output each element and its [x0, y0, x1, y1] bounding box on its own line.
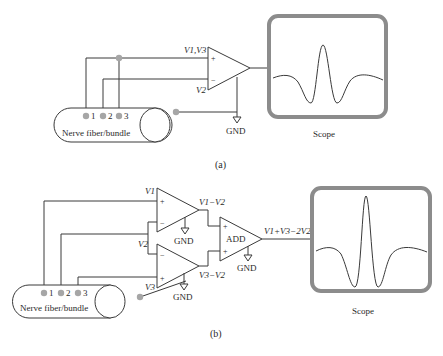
- panel-caption-a: (a): [215, 159, 226, 171]
- wire-shared-minus-b: [148, 222, 157, 254]
- electrode-1-a: [83, 113, 89, 119]
- electrode-3-a: [116, 113, 122, 119]
- wire-reference-a: [176, 112, 237, 117]
- electrode-label-1-a: 1: [91, 111, 96, 121]
- ground-label-adder-b: GND: [237, 263, 257, 273]
- ground-icon-bottom-b: [180, 284, 188, 290]
- amp-top-plus-sign-b: +: [160, 197, 165, 206]
- amp-plus-input-label-a: V1,V3: [184, 45, 207, 55]
- wire-bottom-out-to-adder-b: [199, 251, 220, 266]
- scope-label-b: Scope: [352, 306, 374, 316]
- nerve-label-a: Nerve fiber/bundle: [62, 128, 130, 138]
- electrode-label-2-b: 2: [66, 288, 71, 298]
- amp-bottom-minus-sign-b: −: [160, 251, 165, 260]
- ground-label-top-b: GND: [174, 236, 194, 246]
- recording-setup-diagram: GND + − V1,V3 V2 1 2 3 Nerve fiber/bundl…: [0, 0, 443, 356]
- ground-icon-top-b: [181, 228, 189, 234]
- amp-top-plus-input-label-b: V1: [145, 186, 155, 196]
- electrode-label-3-a: 3: [124, 111, 129, 121]
- electrode-label-1-b: 1: [49, 288, 54, 298]
- amp-bottom-plus-input-label-b: V3: [145, 282, 155, 292]
- panel-a: GND + − V1,V3 V2 1 2 3 Nerve fiber/bundl…: [54, 16, 386, 171]
- amp-top-output-label-b: V1−V2: [199, 197, 226, 207]
- adder-plus-sign-1-b: +: [223, 222, 228, 231]
- wire-top-out-to-adder-b: [199, 210, 220, 226]
- wire-electrode-1-a: [86, 58, 208, 116]
- adder-output-label-b: V1+V3−2V2: [264, 226, 311, 236]
- amp-bottom-output-label-b: V3−V2: [199, 270, 226, 280]
- junction-dot-a: [116, 55, 122, 61]
- ground-label-bottom-b: GND: [173, 292, 193, 302]
- nerve-label-b: Nerve fiber/bundle: [20, 303, 88, 313]
- scope-label-a: Scope: [313, 129, 335, 139]
- shared-minus-label-b: V2: [138, 239, 148, 249]
- nerve-end-cross-section-b: [95, 285, 125, 318]
- ground-icon-adder-b: [244, 255, 252, 261]
- amp-minus-sign-a: −: [211, 76, 216, 85]
- amp-plus-sign-a: +: [211, 54, 216, 63]
- ground-label-a: GND: [226, 126, 246, 136]
- adder-plus-sign-2-b: +: [223, 247, 228, 256]
- electrode-2-b: [58, 290, 64, 296]
- adder-label-b: ADD: [226, 234, 246, 244]
- reference-electrode-a: [173, 109, 179, 115]
- scope-screen-a: [269, 16, 386, 117]
- amp-top-minus-sign-b: −: [160, 219, 165, 228]
- amp-bottom-plus-sign-b: +: [160, 274, 165, 283]
- reference-electrode-b: [137, 294, 143, 300]
- electrode-label-3-b: 3: [83, 288, 88, 298]
- electrode-2-a: [100, 113, 106, 119]
- electrode-1-b: [41, 290, 47, 296]
- panel-b: + − V1 V1−V2 GND V2 − + V3 V3−V2 GND + +…: [13, 186, 431, 340]
- electrode-3-b: [75, 290, 81, 296]
- wire-electrode-2-b: [61, 234, 148, 293]
- panel-caption-b: (b): [210, 328, 222, 340]
- ground-icon-a: [233, 117, 241, 123]
- electrode-label-2-a: 2: [108, 111, 113, 121]
- amp-minus-input-label-a: V2: [196, 85, 206, 95]
- nerve-end-cross-section-a: [140, 108, 170, 142]
